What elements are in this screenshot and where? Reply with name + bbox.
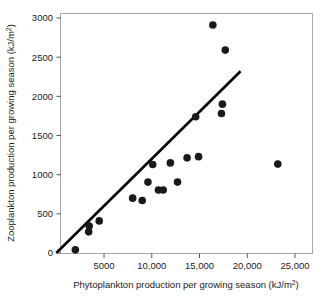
y-tick-label: 1000: [32, 169, 53, 180]
data-point: [159, 186, 167, 194]
data-point: [72, 246, 80, 254]
x-axis-title: Phytoplankton production per growing sea…: [73, 279, 299, 290]
chart-canvas: 050010001500200025003000 500010,00015,00…: [0, 0, 322, 300]
x-tick-label: 15,000: [185, 260, 214, 271]
data-point: [218, 110, 226, 118]
x-tick-label: 20,000: [233, 260, 262, 271]
data-point: [195, 153, 203, 161]
data-point: [167, 159, 175, 167]
data-point: [192, 113, 200, 121]
y-tick-label: 2000: [32, 91, 53, 102]
data-point: [274, 160, 282, 168]
y-tick-label: 3000: [32, 12, 53, 23]
data-point: [183, 154, 191, 162]
data-point: [219, 100, 227, 108]
data-point: [129, 194, 137, 202]
x-tick-label: 10,000: [137, 260, 166, 271]
data-point: [174, 178, 182, 186]
x-tick-label: 25,000: [280, 260, 309, 271]
y-tick-label: 2500: [32, 52, 53, 63]
y-tick-label: 500: [37, 208, 53, 219]
data-point: [209, 21, 217, 29]
data-point: [221, 46, 229, 54]
x-axis-tick-labels: 500010,00015,00020,00025,000: [93, 260, 309, 271]
x-tick-label: 5000: [93, 260, 114, 271]
y-axis-tick-labels: 050010001500200025003000: [32, 12, 53, 258]
x-axis-ticks: [104, 254, 295, 259]
y-tick-label: 0: [48, 247, 53, 258]
data-point: [95, 217, 103, 225]
y-tick-label: 1500: [32, 130, 53, 141]
data-point: [138, 197, 146, 205]
data-point: [85, 222, 93, 230]
data-point: [144, 178, 152, 186]
data-point: [149, 161, 157, 169]
scatter-plot-figure: 050010001500200025003000 500010,00015,00…: [0, 0, 322, 300]
y-axis-title: Zooplankton production per growing seaso…: [5, 24, 16, 242]
